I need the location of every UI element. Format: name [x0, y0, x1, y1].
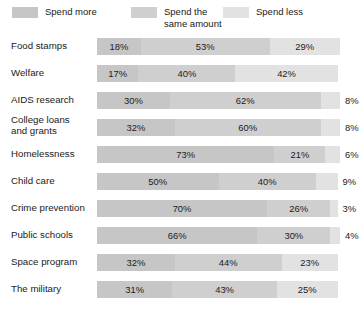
bar-segment-value: 32% [126, 123, 145, 132]
bar-segment-value: 18% [109, 42, 128, 51]
bar-segment-value: 25% [298, 285, 317, 294]
bar-segment-value: 73% [176, 150, 195, 159]
bar-segment: 26% [267, 200, 330, 217]
bar-segment: 70% [97, 200, 267, 217]
row-category-label: AIDS research [11, 94, 95, 105]
bar-segment-value: 43% [215, 285, 234, 294]
bar-segment: 42% [235, 65, 337, 82]
bar-segment-value: 62% [236, 96, 255, 105]
row-category-label: Space program [11, 256, 95, 267]
legend-item-spend-the-same-amount: Spend the same amount [131, 6, 222, 29]
legend-item-spend-less: Spend less [223, 6, 303, 18]
row-category-label: College loans and grants [11, 114, 95, 137]
legend-label-spend-less: Spend less [256, 6, 303, 18]
chart-row: Space program32%44%23% [0, 250, 351, 277]
chart-rows: Food stamps18%53%29%Welfare17%40%42%AIDS… [0, 34, 351, 304]
bar-segment-value: 32% [126, 258, 145, 267]
bar-segment: 21% [274, 146, 325, 163]
row-category-label: Food stamps [11, 40, 95, 51]
chart-row: Crime prevention70%26%3% [0, 196, 351, 223]
bar-segment: 8% [321, 92, 340, 109]
bar-segment: 6% [325, 146, 340, 163]
chart-row: College loans and grants32%60%8% [0, 115, 351, 142]
bar-segment-value: 66% [168, 231, 187, 240]
legend-swatch-spend-less [223, 7, 249, 18]
row-category-label: Public schools [11, 229, 95, 240]
bar-segment-value: 6% [345, 150, 359, 159]
bar-segment: 62% [170, 92, 321, 109]
chart-row: Child care50%40%9% [0, 169, 351, 196]
legend-swatch-spend-the-same-amount [131, 7, 157, 18]
bar-segment-value: 53% [196, 42, 215, 51]
bar-segment: 23% [282, 254, 338, 271]
bar-segment: 50% [97, 173, 219, 190]
stacked-bar: 66%30%4% [97, 227, 340, 244]
chart-legend: Spend more Spend the same amount Spend l… [0, 0, 351, 34]
stacked-bar: 50%40%9% [97, 173, 340, 190]
bar-segment: 43% [172, 281, 276, 298]
bar-segment-value: 8% [345, 123, 359, 132]
chart-row: Welfare17%40%42% [0, 61, 351, 88]
bar-segment-value: 29% [295, 42, 314, 51]
bar-segment-value: 40% [178, 69, 197, 78]
bar-segment: 44% [175, 254, 282, 271]
chart-row: AIDS research30%62%8% [0, 88, 351, 115]
bar-segment-value: 17% [108, 69, 127, 78]
row-category-label: Welfare [11, 67, 95, 78]
legend-label-spend-the-same-amount: Spend the same amount [164, 6, 222, 29]
bar-segment: 53% [141, 38, 270, 55]
bar-segment: 60% [175, 119, 321, 136]
row-category-label: Homelessness [11, 148, 95, 159]
bar-segment: 40% [219, 173, 316, 190]
chart-row: Public schools66%30%4% [0, 223, 351, 250]
row-category-label: Child care [11, 175, 95, 186]
legend-label-spend-more: Spend more [45, 6, 97, 18]
chart-row: The military31%43%25% [0, 277, 351, 304]
chart-row: Homelessness73%21%6% [0, 142, 351, 169]
bar-segment-value: 70% [173, 204, 192, 213]
bar-segment: 8% [321, 119, 340, 136]
bar-segment-value: 44% [219, 258, 238, 267]
bar-segment: 32% [97, 254, 175, 271]
bar-segment-value: 8% [345, 96, 359, 105]
stacked-bar: 31%43%25% [97, 281, 340, 298]
bar-segment-value: 50% [148, 177, 167, 186]
row-category-label: Crime prevention [11, 202, 95, 213]
bar-segment-value: 42% [277, 69, 296, 78]
bar-segment: 31% [97, 281, 172, 298]
bar-segment: 32% [97, 119, 175, 136]
bar-segment: 9% [316, 173, 338, 190]
bar-segment-value: 3% [343, 204, 357, 213]
bar-segment-value: 9% [343, 177, 357, 186]
bar-segment: 66% [97, 227, 257, 244]
bar-segment: 4% [330, 227, 340, 244]
stacked-bar: 70%26%3% [97, 200, 340, 217]
stacked-bar: 32%44%23% [97, 254, 340, 271]
stacked-bar: 18%53%29% [97, 38, 340, 55]
bar-segment-value: 40% [258, 177, 277, 186]
bar-segment: 30% [97, 92, 170, 109]
bar-segment: 30% [257, 227, 330, 244]
bar-segment-value: 4% [345, 231, 359, 240]
stacked-bar: 30%62%8% [97, 92, 340, 109]
bar-segment-value: 31% [125, 285, 144, 294]
bar-segment-value: 30% [124, 96, 143, 105]
bar-segment: 25% [277, 281, 338, 298]
bar-segment-value: 23% [300, 258, 319, 267]
row-category-label: The military [11, 283, 95, 294]
legend-swatch-spend-more [12, 7, 38, 18]
bar-segment-value: 26% [289, 204, 308, 213]
chart-row: Food stamps18%53%29% [0, 34, 351, 61]
stacked-bar: 17%40%42% [97, 65, 340, 82]
bar-segment: 73% [97, 146, 274, 163]
bar-segment: 3% [330, 200, 337, 217]
bar-segment: 17% [97, 65, 138, 82]
bar-segment-value: 30% [284, 231, 303, 240]
stacked-bar: 32%60%8% [97, 119, 340, 136]
bar-segment-value: 21% [291, 150, 310, 159]
stacked-bar: 73%21%6% [97, 146, 340, 163]
bar-segment: 40% [138, 65, 235, 82]
legend-item-spend-more: Spend more [12, 6, 97, 18]
bar-segment: 29% [270, 38, 340, 55]
